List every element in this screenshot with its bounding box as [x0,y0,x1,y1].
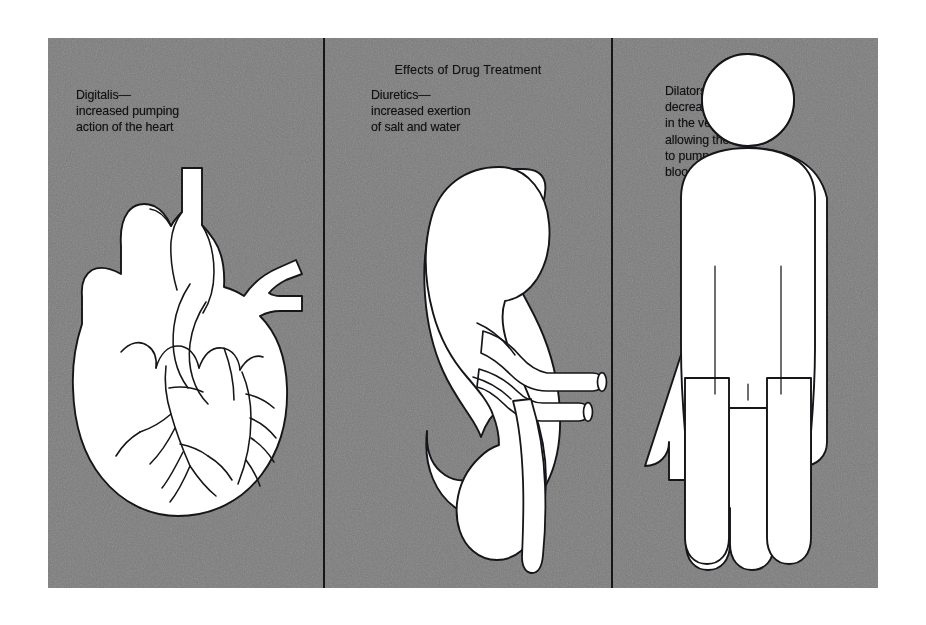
illustration-plate: Digitalis— increased pumping action of t… [48,38,878,588]
caption-diuretics: Diuretics— increased exertion of salt an… [371,87,571,136]
kidney-icon [423,163,608,583]
panel-diuretics: Diuretics— increased exertion of salt an… [325,38,611,588]
panel-digitalis: Digitalis— increased pumping action of t… [48,38,323,588]
figure-root: Digitalis— increased pumping action of t… [0,0,926,625]
panel-divider-right [611,38,613,588]
person-figure-icon [663,48,833,588]
page-title: Effects of Drug Treatment [325,63,611,77]
panel-dilators: Dilators— decreased pressure in the vess… [613,38,878,588]
heart-icon [70,156,310,541]
panel-divider-left [323,38,325,588]
caption-digitalis: Digitalis— increased pumping action of t… [76,87,266,136]
